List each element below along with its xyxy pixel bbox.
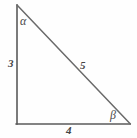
side-label-vertical-leg: 3 <box>8 58 14 69</box>
side-label-horizontal-leg: 4 <box>66 125 72 136</box>
side-label-hypotenuse: 5 <box>80 60 86 71</box>
hypotenuse-line <box>17 5 130 124</box>
angle-label-beta: β <box>110 109 116 121</box>
angle-label-alpha: α <box>20 15 26 27</box>
geometry-figure: 3 4 5 α β <box>0 0 137 138</box>
